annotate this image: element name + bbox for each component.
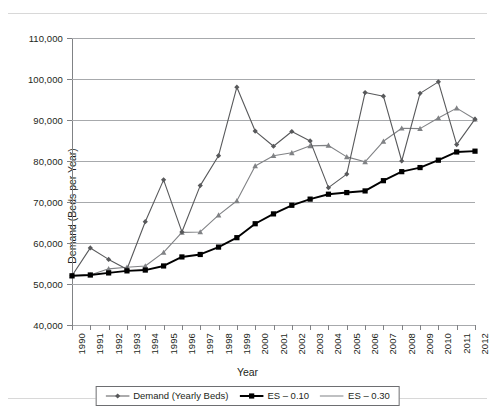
series-1 <box>69 79 477 278</box>
page-rule-top <box>8 13 487 14</box>
x-tick-label: 2003 <box>314 333 325 355</box>
x-axis-tick <box>109 325 110 330</box>
legend-label: ES – 0.30 <box>348 390 390 401</box>
y-tick-label: 40,000 <box>33 320 63 331</box>
data-point-marker <box>417 165 422 170</box>
x-axis-tick <box>200 325 201 330</box>
legend-label: ES – 0.10 <box>267 390 309 401</box>
x-tick-label: 1996 <box>186 333 197 355</box>
x-tick-label: 1992 <box>113 333 124 355</box>
data-point-marker <box>271 211 276 216</box>
x-axis-tick <box>72 325 73 330</box>
data-point-marker <box>417 91 422 96</box>
x-axis-tick <box>274 325 275 330</box>
line-plain <box>320 391 344 401</box>
data-point-marker <box>143 219 148 224</box>
series-line <box>72 108 475 276</box>
x-axis-tick <box>127 325 128 330</box>
y-tick-label: 90,000 <box>33 115 63 126</box>
data-point-marker <box>362 90 367 95</box>
x-axis-tick <box>365 325 366 330</box>
data-point-marker <box>381 178 386 183</box>
x-tick-label: 1990 <box>76 333 87 355</box>
data-point-marker <box>253 221 258 226</box>
y-tick-label: 60,000 <box>33 238 63 249</box>
data-point-marker <box>436 79 441 84</box>
x-axis-tick <box>383 325 384 330</box>
data-point-marker <box>399 169 404 174</box>
x-tick-label: 2005 <box>351 333 362 355</box>
x-axis-tick <box>438 325 439 330</box>
x-axis-tick <box>237 325 238 330</box>
x-axis-tick <box>164 325 165 330</box>
y-tick-label: 100,000 <box>28 74 63 85</box>
x-tick-label: 1998 <box>223 333 234 355</box>
x-axis-tick <box>475 325 476 330</box>
series-line <box>72 82 475 276</box>
x-axis-tick <box>347 325 348 330</box>
x-tick-label: 2007 <box>387 333 398 355</box>
data-point-marker <box>252 163 258 168</box>
data-point-marker <box>454 149 459 154</box>
x-axis-tick <box>255 325 256 330</box>
y-tick-label: 70,000 <box>33 197 63 208</box>
data-point-marker <box>344 190 349 195</box>
data-point-marker <box>198 183 203 188</box>
x-tick-label: 1994 <box>149 333 160 355</box>
data-point-marker <box>436 115 442 120</box>
data-point-marker <box>161 263 166 268</box>
x-tick-label: 1995 <box>168 333 179 355</box>
data-point-marker <box>344 154 350 159</box>
data-point-marker <box>216 245 221 250</box>
x-axis-tick <box>219 325 220 330</box>
data-point-marker <box>88 272 93 277</box>
data-point-marker <box>234 85 239 90</box>
data-point-marker <box>69 273 74 278</box>
data-point-marker <box>399 158 404 163</box>
x-tick-label: 2000 <box>259 333 270 355</box>
data-point-marker <box>198 252 203 257</box>
x-axis-tick <box>90 325 91 330</box>
y-tick-label: 110,000 <box>29 33 63 44</box>
x-tick-label: 2001 <box>278 333 289 355</box>
x-tick-label: 2002 <box>296 333 307 355</box>
x-axis-title: Year <box>0 366 495 378</box>
data-point-marker <box>234 235 239 240</box>
x-tick-label: 1999 <box>241 333 252 355</box>
legend-item: ES – 0.30 <box>320 390 390 401</box>
legend-label: Demand (Yearly Beds) <box>133 390 228 401</box>
x-tick-label: 1997 <box>204 333 215 355</box>
chart-legend: Demand (Yearly Beds)ES – 0.10ES – 0.30 <box>95 386 400 406</box>
y-tick-label: 80,000 <box>33 156 63 167</box>
plot-area: 40,00050,00060,00070,00080,00090,000100,… <box>72 38 475 325</box>
x-tick-label: 2012 <box>479 333 490 355</box>
data-point-marker <box>362 188 367 193</box>
data-point-marker <box>289 203 294 208</box>
x-axis-tick <box>420 325 421 330</box>
data-point-marker <box>249 393 254 398</box>
x-axis-tick <box>145 325 146 330</box>
x-axis-tick <box>328 325 329 330</box>
data-point-marker <box>308 138 313 143</box>
x-tick-label: 2004 <box>332 333 343 355</box>
data-point-marker <box>308 197 313 202</box>
data-point-marker <box>326 192 331 197</box>
x-axis-tick <box>402 325 403 330</box>
line-diamond-marker <box>105 391 129 401</box>
data-point-marker <box>115 393 120 398</box>
legend-item: ES – 0.10 <box>239 390 309 401</box>
data-point-marker <box>161 177 166 182</box>
series-3 <box>69 105 478 278</box>
data-point-marker <box>234 198 240 203</box>
y-tick-label: 50,000 <box>33 279 63 290</box>
data-series-layer <box>72 38 475 325</box>
data-point-marker <box>436 158 441 163</box>
data-point-marker <box>124 268 129 273</box>
line-chart-figure: Demand (Beds per Year) 40,00050,00060,00… <box>0 18 495 394</box>
x-axis-tick <box>457 325 458 330</box>
data-point-marker <box>381 94 386 99</box>
line-square-marker <box>239 391 263 401</box>
x-tick-label: 2009 <box>424 333 435 355</box>
legend-item: Demand (Yearly Beds) <box>105 390 228 401</box>
data-point-marker <box>106 257 111 262</box>
